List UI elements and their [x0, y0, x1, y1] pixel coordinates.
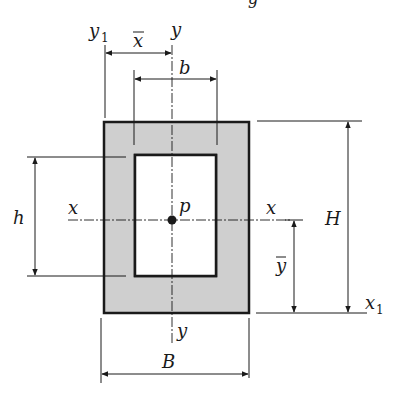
- label-y1-sub: 1: [101, 31, 109, 45]
- label-b: b: [179, 57, 191, 78]
- title-fragment: g: [248, 0, 258, 8]
- label-x1-sub: 1: [376, 303, 384, 317]
- label-x1: x: [365, 292, 375, 313]
- label-B: B: [161, 351, 175, 372]
- label-x-left: x: [68, 197, 78, 218]
- inner-opening: [135, 155, 216, 276]
- label-y-top: y: [170, 19, 182, 40]
- label-h: h: [13, 207, 25, 228]
- label-x-right: x: [266, 197, 276, 218]
- label-x-bar: x: [133, 30, 143, 51]
- cross-section-diagram: g y 1 x y b h x p x H y x 1 y B: [0, 0, 393, 395]
- label-y1: y: [88, 20, 100, 41]
- label-y-bottom: y: [176, 320, 188, 341]
- centroid-point: [168, 216, 177, 225]
- label-y-bar: y: [275, 255, 287, 276]
- label-p: p: [179, 195, 191, 216]
- label-H: H: [324, 208, 341, 229]
